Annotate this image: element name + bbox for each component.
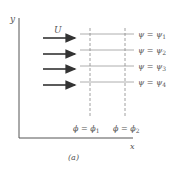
streamline-label-3: ψ = ψ3: [138, 62, 166, 72]
streamline-label-4: ψ = ψ4: [138, 78, 166, 88]
potential-lines: ϕ = ϕ1 ϕ = ϕ2: [73, 28, 140, 134]
streamline-label-2: ψ = ψ2: [138, 46, 166, 56]
streamlines: ψ = ψ1 ψ = ψ2 ψ = ψ3 ψ = ψ4: [80, 30, 166, 88]
y-axis-label: y: [9, 14, 16, 24]
flow-velocity-label: U: [54, 25, 62, 35]
figure-caption: (a): [68, 153, 79, 162]
streamline-label-1: ψ = ψ1: [138, 30, 166, 40]
potential-label-2: ϕ = ϕ2: [113, 124, 140, 134]
x-axis-label: x: [130, 142, 135, 151]
potential-label-1: ϕ = ϕ1: [73, 124, 100, 134]
flow-net-diagram: y x U ψ = ψ1 ψ = ψ2 ψ = ψ3 ψ = ψ4 ϕ = ϕ1…: [0, 0, 173, 170]
uniform-flow-arrows: U: [43, 25, 75, 85]
